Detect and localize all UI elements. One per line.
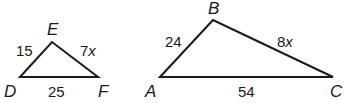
vertex-label-a: A <box>144 82 156 101</box>
triangle-def: D E F 15 7x 25 <box>4 20 110 101</box>
side-label-bc: 8x <box>277 33 293 50</box>
side-label-ef-coef: 7 <box>80 42 88 59</box>
vertex-label-b: B <box>208 0 219 18</box>
side-label-bc-var: x <box>284 33 293 50</box>
triangle-abc: A B C 24 8x 54 <box>144 0 343 101</box>
vertex-label-c: C <box>330 82 343 101</box>
side-label-ef: 7x <box>80 42 96 59</box>
side-label-de: 15 <box>16 42 33 59</box>
side-label-ef-var: x <box>87 42 96 59</box>
vertex-label-f: F <box>98 82 110 101</box>
side-label-ab: 24 <box>165 33 182 50</box>
similar-triangles-diagram: D E F 15 7x 25 A B C 24 8x 54 <box>0 0 344 103</box>
side-label-bc-coef: 8 <box>277 33 285 50</box>
side-label-ac: 54 <box>238 83 255 100</box>
triangle-abc-outline <box>160 20 333 77</box>
vertex-label-d: D <box>4 82 16 101</box>
side-label-df: 25 <box>48 83 65 100</box>
vertex-label-e: E <box>47 20 59 39</box>
